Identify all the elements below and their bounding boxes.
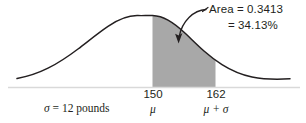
normal-distribution-figure: Area = 0.3413 = 34.13% 150 μ 162 μ + σ σ… xyxy=(0,0,306,123)
x-tick-symbol-mu: μ xyxy=(139,104,167,116)
x-tick-label-162: 162 xyxy=(202,89,230,101)
sigma-note: σ = 12 pounds xyxy=(44,103,110,115)
shaded-area-region xyxy=(153,16,216,87)
x-tick-label-150: 150 xyxy=(139,89,167,101)
sigma-note-text: = 12 pounds xyxy=(50,102,110,114)
area-annotation-label: Area = 0.3413 xyxy=(209,4,283,16)
percent-annotation-label: = 34.13% xyxy=(228,20,278,32)
x-tick-symbol-mu-plus-sigma: μ + σ xyxy=(194,104,238,116)
